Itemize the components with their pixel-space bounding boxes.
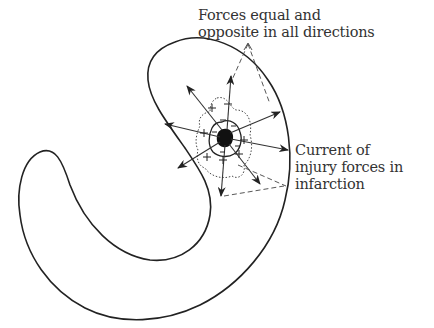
label-forces-line1: Forces equal and	[198, 7, 375, 24]
leader-injury-upper	[238, 165, 286, 186]
necrosis-core	[217, 129, 233, 147]
leader-forces-right	[248, 44, 270, 104]
leader-forces-left	[232, 44, 248, 80]
label-forces-line2: opposite in all directions	[198, 24, 375, 41]
label-injury-line2: injury forces in	[295, 159, 403, 176]
arrow-up	[227, 76, 231, 130]
arrow-down-right	[229, 144, 260, 184]
label-injury-line1: Current of	[295, 142, 403, 159]
leader-injury-lower	[224, 186, 284, 196]
label-forces-equal: Forces equal and opposite in all directi…	[198, 7, 375, 41]
arrow-up-left	[187, 86, 222, 130]
arrow-up-right	[230, 112, 280, 133]
leader-lines	[224, 44, 286, 196]
label-injury-line3: infarction	[295, 176, 403, 193]
ventricle-outline	[19, 38, 290, 320]
label-current-of-injury: Current of injury forces in infarction	[295, 142, 403, 193]
arrow-down	[221, 145, 225, 196]
